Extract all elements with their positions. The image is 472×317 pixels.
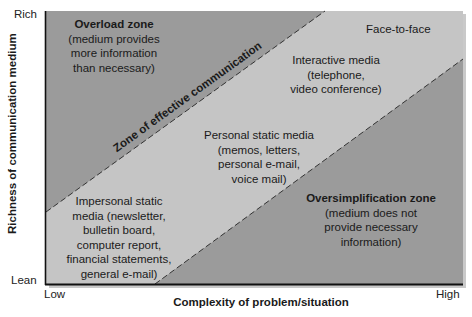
- personal-static-line-2: (memos, letters,: [196, 143, 322, 158]
- x-axis-label: Complexity of problem/situation: [0, 296, 472, 308]
- y-tick-lean: Lean: [11, 274, 37, 286]
- overload-zone-desc-2: more information: [54, 46, 174, 61]
- impersonal-static-line-2: media (newsletter,: [59, 209, 179, 224]
- y-axis-label: Richness of communication medium: [6, 54, 18, 234]
- impersonal-static-line-5: financial statements,: [59, 252, 179, 267]
- interactive-media-label: Interactive media (telephone, video conf…: [286, 53, 386, 97]
- overload-zone-title: Overload zone: [54, 17, 174, 32]
- impersonal-static-line-6: general e-mail): [59, 267, 179, 282]
- oversimplification-zone-title: Oversimplification zone: [300, 191, 442, 206]
- impersonal-static-line-3: bulletin board,: [59, 223, 179, 238]
- y-tick-rich: Rich: [14, 8, 37, 20]
- oversimplification-desc-1: (medium does not: [300, 206, 442, 221]
- interactive-media-line-2: (telephone,: [286, 68, 386, 83]
- face-to-face-label: Face-to-face: [366, 22, 431, 37]
- overload-zone-desc-1: (medium provides: [54, 32, 174, 47]
- oversimplification-desc-2: provide necessary: [300, 220, 442, 235]
- overload-zone-desc-3: than necessary): [54, 61, 174, 76]
- personal-static-media-label: Personal static media (memos, letters, p…: [196, 128, 322, 186]
- personal-static-line-3: personal e-mail,: [196, 157, 322, 172]
- impersonal-static-line-1: Impersonal static: [59, 194, 179, 209]
- oversimplification-zone-label: Oversimplification zone (medium does not…: [300, 191, 442, 249]
- interactive-media-line-1: Interactive media: [286, 53, 386, 68]
- personal-static-line-4: voice mail): [196, 172, 322, 187]
- impersonal-static-line-4: computer report,: [59, 238, 179, 253]
- personal-static-line-1: Personal static media: [196, 128, 322, 143]
- oversimplification-desc-3: information): [300, 235, 442, 250]
- overload-zone-label: Overload zone (medium provides more info…: [54, 17, 174, 75]
- impersonal-static-media-label: Impersonal static media (newsletter, bul…: [59, 194, 179, 281]
- interactive-media-line-3: video conference): [286, 82, 386, 97]
